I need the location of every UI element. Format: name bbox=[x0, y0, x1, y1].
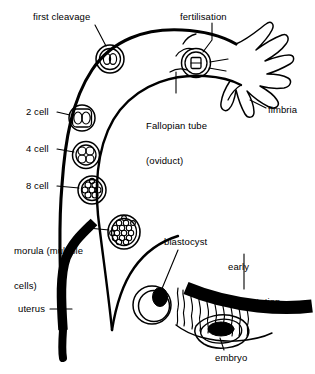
label-fertilisation: fertilisation bbox=[180, 11, 227, 23]
label-fallopian-tube-line1: Fallopian tube bbox=[146, 120, 207, 132]
label-uterus: uterus bbox=[18, 303, 45, 315]
label-fimbria: fimbria bbox=[268, 104, 297, 116]
sperm-tail-lines bbox=[210, 59, 228, 62]
label-4-cell: 4 cell bbox=[26, 143, 49, 155]
leader-blastocyst bbox=[161, 250, 178, 291]
label-blastocyst: blastocyst bbox=[164, 236, 207, 248]
fimbria-outline bbox=[221, 22, 294, 117]
label-early-implantation-line1: early bbox=[228, 261, 280, 273]
four-cell-blastomere-2 bbox=[86, 147, 94, 155]
label-8-cell: 8 cell bbox=[26, 180, 49, 192]
morula-membrane bbox=[112, 219, 137, 246]
leader-first-cleavage bbox=[95, 25, 106, 46]
label-first-cleavage: first cleavage bbox=[33, 11, 90, 23]
two-cell-blastomere-1 bbox=[74, 112, 82, 124]
four-cell-blastomere-1 bbox=[78, 147, 86, 155]
label-early-implantation: early implantation bbox=[228, 238, 280, 330]
label-fallopian-tube: Fallopian tube (oviduct) bbox=[146, 97, 207, 189]
leader-2cell bbox=[57, 112, 70, 115]
two-cell-blastomere-2 bbox=[82, 112, 90, 124]
label-morula-line2: cells) bbox=[14, 280, 83, 292]
label-morula: morula (multiple cells) bbox=[14, 222, 83, 314]
label-early-implantation-line2: implantation bbox=[228, 296, 280, 308]
sperm-tail-line-2 bbox=[209, 68, 226, 71]
four-cell-blastomere-4 bbox=[86, 155, 94, 163]
label-2-cell: 2 cell bbox=[26, 106, 49, 118]
eight-cell-membrane bbox=[82, 180, 103, 201]
label-embryo: embryo bbox=[215, 352, 247, 364]
four-cell-blastomere-3 bbox=[78, 155, 86, 163]
uterus-left-wall-taper bbox=[62, 330, 63, 358]
label-fallopian-tube-line2: (oviduct) bbox=[146, 155, 207, 167]
diagram-canvas: first cleavage fertilisation Fallopian t… bbox=[0, 0, 315, 374]
label-morula-line1: morula (multiple bbox=[14, 245, 83, 257]
blastocyst-inner-cell-mass bbox=[153, 288, 168, 307]
leader-fertilisation bbox=[203, 23, 212, 52]
